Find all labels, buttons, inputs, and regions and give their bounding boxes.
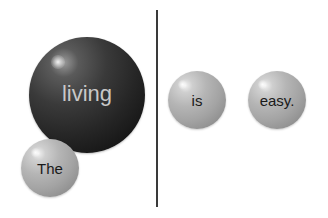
vertical-divider — [156, 10, 158, 207]
sphere-is: is — [168, 71, 226, 129]
sphere-highlight — [258, 80, 267, 89]
sphere-label-is: is — [192, 92, 203, 109]
sphere-label-easy: easy. — [260, 92, 295, 109]
sphere-the: The — [21, 139, 79, 197]
sphere-label-living: living — [62, 81, 112, 107]
sphere-label-the: The — [37, 160, 63, 177]
sphere-living: living — [29, 37, 145, 153]
sphere-highlight — [178, 80, 187, 89]
sphere-highlight — [31, 148, 40, 157]
sphere-easy: easy. — [248, 71, 306, 129]
sphere-highlight — [51, 55, 65, 69]
